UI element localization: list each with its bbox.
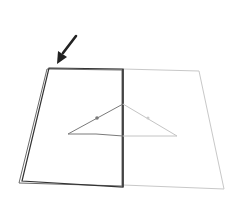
dot-marker-left	[95, 116, 99, 120]
dot-marker-right	[147, 117, 150, 120]
arrow-icon	[57, 36, 76, 64]
left-page	[22, 68, 123, 187]
triangle-right-half	[123, 104, 177, 136]
paper-fold-diagram	[0, 0, 238, 199]
right-page	[123, 69, 224, 189]
triangle-left-half	[68, 104, 123, 136]
diagram-canvas: Paper folding illustration: open sheet w…	[0, 0, 238, 199]
